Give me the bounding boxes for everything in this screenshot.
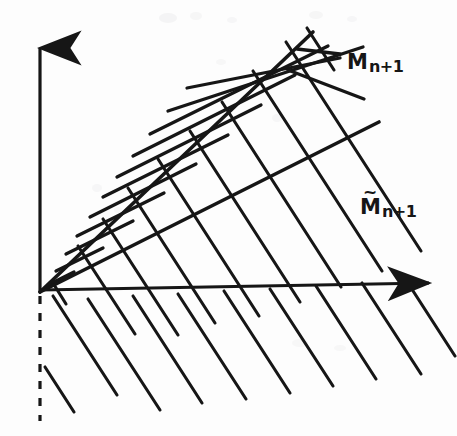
figure-canvas: Mn+1 ~ M n+1: [0, 0, 457, 436]
wedge-hatch-line: [133, 75, 295, 156]
label-m-base: M: [347, 52, 368, 73]
sweep-line: [222, 102, 341, 287]
label-m-tilde-holder: ~ M: [360, 197, 381, 218]
sweep-line-below: [362, 283, 421, 374]
sweep-line: [253, 71, 382, 271]
wedge-hatch-line: [150, 46, 328, 134]
wedge-hatch-line: [103, 135, 228, 197]
wedge-hatch-line: [56, 248, 103, 271]
label-m-tilde-n-plus-1: ~ M n+1: [360, 197, 415, 218]
upper-ray-m-n-plus-1: [40, 32, 313, 292]
sweep-line-below: [53, 296, 117, 395]
label-m-subscript: n+1: [369, 59, 403, 75]
sweep-line: [190, 131, 300, 302]
horizontal-axis: [40, 283, 429, 290]
wedge-hatch-line: [187, 58, 340, 88]
sweep-line-below: [406, 280, 455, 356]
tilde-accent-glyph: ~: [363, 184, 377, 201]
label-m-n-plus-1: Mn+1: [347, 52, 402, 73]
label-m-tilde-subscript: n+1: [382, 204, 416, 220]
sweep-line: [128, 188, 215, 323]
hatch-overshoot-stub: [288, 70, 364, 99]
sweep-line: [103, 219, 178, 335]
sweep-line: [158, 159, 259, 316]
sweep-line-below: [45, 367, 74, 412]
sweep-line-below: [316, 286, 376, 379]
sweep-line-below: [270, 289, 333, 386]
